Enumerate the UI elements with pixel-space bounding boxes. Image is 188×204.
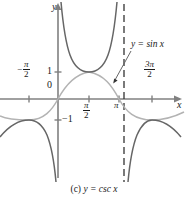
tick-label-one: 1 (47, 66, 52, 76)
minus-sign: − (17, 65, 22, 74)
caption-equation: y = csc x (83, 184, 117, 194)
sine-curve-annotation: y = sin x (131, 40, 164, 50)
y-axis-label: y (52, 2, 56, 12)
plot-canvas (0, 0, 188, 204)
tick-label-pi: π (114, 101, 119, 110)
tick-label-three-half-pi: 3π 2 (144, 60, 155, 79)
tick-label-neg-half-pi: − π 2 (17, 60, 30, 79)
tick-denominator: 2 (23, 70, 30, 79)
csc-branch-middle (61, 2, 117, 72)
annotation-leader-line (113, 51, 131, 83)
x-axis (0, 96, 182, 103)
x-axis-label: x (177, 100, 181, 110)
tick-label-neg-one: −1 (62, 114, 73, 124)
origin-label: 0 (47, 80, 52, 90)
tick-denominator: 2 (144, 70, 155, 79)
caption-prefix: (c) (70, 184, 81, 194)
csc-branch-left (0, 120, 56, 182)
figure-container: y x − π 2 π 2 π 3π 2 1 0 −1 y = sin x (c… (0, 0, 188, 204)
tick-denominator: 2 (83, 111, 90, 120)
tick-label-half-pi: π 2 (83, 101, 90, 120)
sine-curve (0, 72, 184, 120)
csc-branch-right (128, 120, 181, 182)
y-axis (55, 3, 62, 178)
figure-caption: (c) y = csc x (0, 184, 188, 194)
